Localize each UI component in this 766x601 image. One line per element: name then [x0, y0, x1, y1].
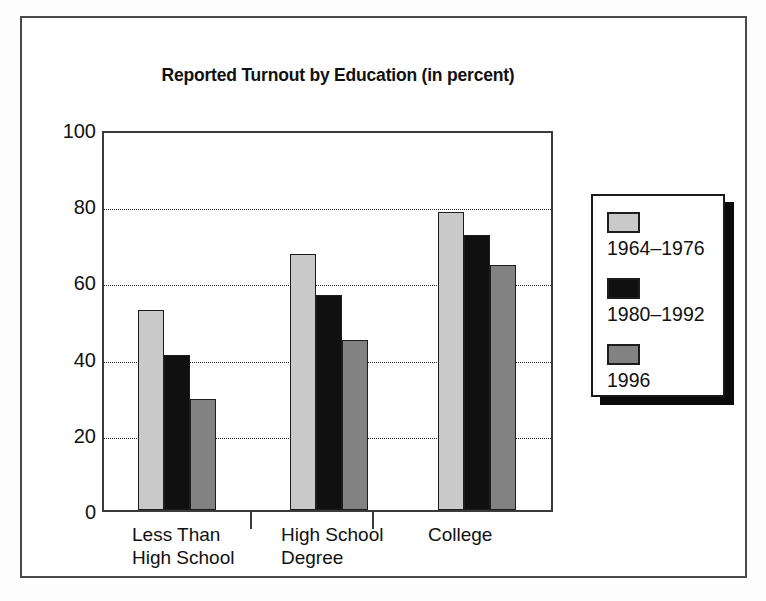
bar-group-college: [438, 133, 516, 510]
legend-entry-1980-1992: 1980–1992: [607, 278, 719, 326]
legend-swatch-black-icon: [607, 278, 640, 299]
chart-title: Reported Turnout by Education (in percen…: [118, 65, 558, 86]
y-tick-60: 60: [50, 272, 96, 295]
x-category-label-less-than-high-school: Less Than High School: [132, 523, 234, 569]
x-tick-divider-1: [250, 512, 252, 529]
bar-group-high-school-degree: [290, 133, 368, 510]
bar-1980-1992-less-than-high-school: [164, 355, 190, 510]
y-tick-20: 20: [50, 424, 96, 447]
legend-entry-1996: 1996: [607, 344, 719, 392]
bar-1996-college: [490, 265, 516, 510]
y-tick-40: 40: [50, 348, 96, 371]
legend-label-1996: 1996: [607, 369, 719, 392]
y-axis: 100 80 60 40 20 0: [40, 131, 96, 512]
legend: 1964–1976 1980–1992 1996: [591, 194, 725, 397]
y-tick-100: 100: [50, 120, 96, 143]
legend-entry-1964-1976: 1964–1976: [607, 212, 719, 260]
legend-swatch-light-gray-icon: [607, 212, 640, 233]
x-category-label-college: College: [428, 523, 492, 546]
legend-label-1980-1992: 1980–1992: [607, 303, 719, 326]
bar-1980-1992-college: [464, 235, 490, 510]
bar-1964-1976-less-than-high-school: [138, 310, 164, 510]
legend-label-1964-1976: 1964–1976: [607, 237, 719, 260]
bar-1964-1976-high-school-degree: [290, 254, 316, 510]
y-tick-80: 80: [50, 196, 96, 219]
bar-1980-1992-high-school-degree: [316, 295, 342, 510]
bar-group-less-than-high-school: [138, 133, 216, 510]
bar-1996-high-school-degree: [342, 340, 368, 510]
y-tick-0: 0: [50, 501, 96, 524]
figure-frame: Reported Turnout by Education (in percen…: [20, 16, 747, 578]
x-category-label-high-school-degree: High School Degree: [281, 523, 383, 569]
legend-swatch-medium-gray-icon: [607, 344, 640, 365]
bar-1964-1976-college: [438, 212, 464, 510]
bar-1996-less-than-high-school: [190, 399, 216, 510]
plot-area: [102, 131, 553, 512]
